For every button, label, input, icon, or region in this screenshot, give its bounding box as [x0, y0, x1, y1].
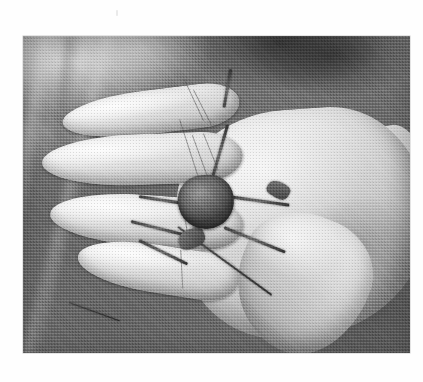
- scan-speck-artifact: [116, 10, 118, 16]
- crab-leg-upper-right: [211, 125, 229, 178]
- crab: [23, 36, 410, 353]
- crab-leg-upper-right-upper: [223, 69, 233, 108]
- photograph: [23, 36, 410, 353]
- crab-claw-right: [264, 177, 292, 202]
- crab-leg-lower-right: [224, 226, 286, 254]
- crab-carapace: [175, 173, 236, 232]
- crab-leg-trailing-tip: [69, 302, 120, 322]
- page-canvas: [0, 0, 423, 382]
